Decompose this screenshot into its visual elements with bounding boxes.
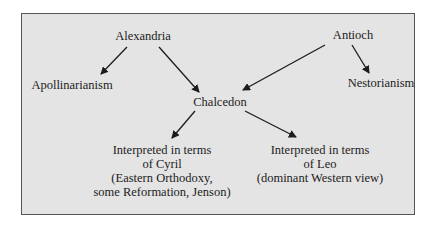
arrow-antioch-nestorianism [352,45,369,73]
node-antioch: Antioch [333,28,373,42]
arrow-alexandria-apollinarianism [101,47,127,74]
leo-line-2: of Leo [257,157,384,171]
node-nestorianism: Nestorianism [348,76,415,90]
node-leo: Interpreted in terms of Leo (dominant We… [257,143,384,185]
node-alexandria: Alexandria [115,29,171,43]
cyril-line-1: Interpreted in terms [93,143,230,157]
node-chalcedon: Chalcedon [193,95,246,109]
leo-line-3: (dominant Western view) [257,171,384,185]
arrow-chalcedon-cyril [172,111,195,138]
cyril-line-2: of Cyril [93,157,230,171]
arrow-alexandria-chalcedon [159,47,199,92]
leo-line-1: Interpreted in terms [257,143,384,157]
cyril-line-4: some Reformation, Jenson) [93,185,230,199]
arrow-antioch-chalcedon [243,45,325,90]
node-cyril: Interpreted in terms of Cyril (Eastern O… [93,143,230,199]
cyril-line-3: (Eastern Orthodoxy, [93,171,230,185]
arrow-chalcedon-leo [245,111,296,137]
node-apollinarianism: Apollinarianism [31,78,112,92]
